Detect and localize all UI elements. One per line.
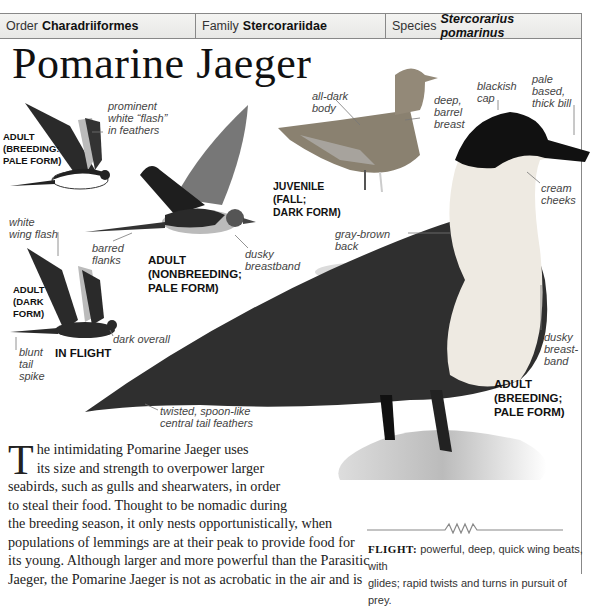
label-dusky-breastband: duskybreastband xyxy=(245,248,300,272)
label-tail-feathers: twisted, spoon-likecentral tail feathers xyxy=(160,405,253,429)
caption-adult-breeding-main: ADULT(BREEDING;PALE FORM) xyxy=(494,377,565,419)
label-dark-overall: dark overall xyxy=(113,333,170,345)
label-blunt-tail-spike: blunttailspike xyxy=(19,346,45,382)
caption-adult-nonbreeding: ADULT(NONBREEDING;PALE FORM) xyxy=(148,253,242,295)
flight-description: FLIGHT: powerful, deep, quick wing beats… xyxy=(368,541,583,609)
caption-in-flight: IN FLIGHT xyxy=(55,347,111,360)
caption-juvenile: JUVENILE(FALL;DARK FORM) xyxy=(273,180,341,219)
label-pale-based-bill: palebased,thick bill xyxy=(532,73,571,109)
flight-label: FLIGHT: xyxy=(368,543,417,555)
label-barred-flanks: barredflanks xyxy=(92,242,124,266)
species-description: T he intimidating Pomarine Jaeger uses i… xyxy=(8,440,333,588)
label-all-dark-body: all-darkbody xyxy=(312,90,348,114)
flight-pattern-divider-icon xyxy=(367,522,563,534)
label-prominent-flash: prominentwhite “flash”in feathers xyxy=(108,100,167,136)
caption-adult-dark: ADULT(DARKFORM) xyxy=(13,284,44,320)
label-gray-brown-back: gray-brownback xyxy=(335,228,390,252)
label-cream-cheeks: creamcheeks xyxy=(541,182,576,206)
label-white-wing-flash: whitewing flash xyxy=(9,216,58,240)
label-blackish-cap: blackishcap xyxy=(477,80,517,104)
drop-cap: T xyxy=(8,443,34,477)
label-deep-barrel-breast: deep,barrelbreast xyxy=(434,94,465,130)
label-dusky-breast-band: duskybreast-band xyxy=(544,331,578,367)
caption-adult-breeding-pale: ADULT(BREEDING:PALE FORM) xyxy=(3,131,61,167)
